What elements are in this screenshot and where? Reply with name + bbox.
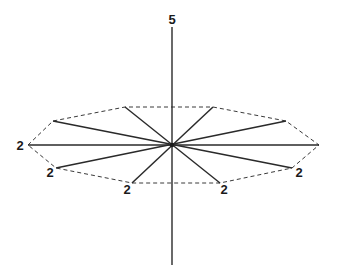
symmetry-diagram: 5 2 2 2 2 2 [0, 0, 338, 276]
twofold-axis-label-3: 2 [123, 182, 130, 197]
center-point [170, 143, 174, 147]
twofold-axis-label-2: 2 [46, 165, 53, 180]
twofold-axis-label-4: 2 [220, 182, 227, 197]
twofold-axis-label-1: 2 [16, 138, 23, 153]
twofold-axis-label-5: 2 [295, 165, 302, 180]
fivefold-axis-label: 5 [168, 12, 175, 27]
